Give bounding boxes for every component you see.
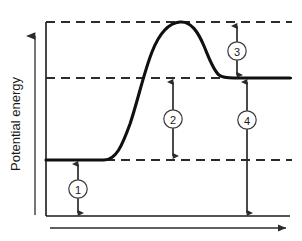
energy-level-guides (46, 22, 292, 160)
reaction-pathway-curve (46, 22, 290, 160)
y-axis-label: Potential energy (8, 77, 23, 171)
annotation-2-label: 2 (170, 114, 176, 126)
annotation-marker-2[interactable]: 2 (164, 82, 182, 156)
annotation-3-label: 3 (234, 46, 240, 58)
y-axis-caption-group: Potential energy (8, 77, 23, 171)
annotation-marker-1[interactable]: 1 (69, 164, 87, 213)
annotation-4-label: 4 (244, 115, 250, 127)
annotation-1-label: 1 (75, 184, 81, 196)
axis-direction-arrows (35, 36, 286, 228)
annotation-marker-4[interactable]: 4 (238, 82, 256, 213)
potential-energy-diagram: 1 2 3 4 Potential energy (0, 0, 302, 241)
annotation-marker-3[interactable]: 3 (228, 26, 246, 75)
diagram-canvas: 1 2 3 4 Potential energy (0, 0, 302, 241)
energy-curve-path (46, 22, 290, 160)
